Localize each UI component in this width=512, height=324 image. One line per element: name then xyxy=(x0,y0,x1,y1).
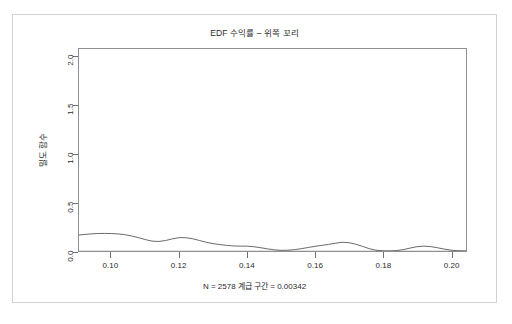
screenshot-page: EDF 수익률 – 위쪽 꼬리 밀도 함수 0.00.51.01.52.0 0.… xyxy=(0,0,512,324)
x-axis-title: N = 2578 계급 구간 = 0.00342 xyxy=(12,280,497,291)
y-axis-tick-label: 1.5 xyxy=(66,103,75,114)
x-axis-tick-label: 0.16 xyxy=(307,261,323,270)
x-axis-tick xyxy=(179,252,180,258)
x-axis-tick xyxy=(452,252,453,258)
y-axis-title: 밀도 함수 xyxy=(36,48,48,252)
x-axis-tick xyxy=(315,252,316,258)
plot-panel xyxy=(78,48,467,252)
density-curve-svg xyxy=(79,49,466,251)
y-axis-tick-label: 0.0 xyxy=(66,251,75,262)
x-axis-tick xyxy=(247,252,248,258)
page-title: EDF 수익률 – 위쪽 꼬리 xyxy=(12,26,497,38)
x-axis-tick-label: 0.10 xyxy=(103,261,119,270)
density-plot-figure: EDF 수익률 – 위쪽 꼬리 밀도 함수 0.00.51.01.52.0 0.… xyxy=(12,14,497,303)
x-axis-tick-label: 0.20 xyxy=(444,261,460,270)
y-axis-tick-label: 1.0 xyxy=(66,152,75,163)
y-axis-tick-label: 0.5 xyxy=(66,201,75,212)
y-axis-title-label: 밀도 함수 xyxy=(36,133,48,167)
x-axis-tick-label: 0.12 xyxy=(171,261,187,270)
density-curve-path xyxy=(79,233,466,250)
y-axis-tick-label: 2.0 xyxy=(66,54,75,65)
x-axis-tick xyxy=(383,252,384,258)
x-axis-tick xyxy=(110,252,111,258)
x-axis-tick-label: 0.14 xyxy=(239,261,255,270)
x-axis-tick-label: 0.18 xyxy=(376,261,392,270)
x-axis: 0.100.120.140.160.180.20 xyxy=(78,252,467,260)
